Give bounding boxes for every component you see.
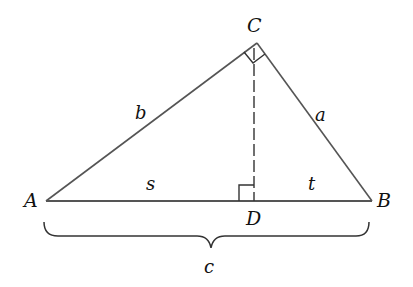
side-label-a: a xyxy=(315,104,326,125)
vertex-label-d: D xyxy=(245,207,261,229)
diagram-canvas: A B C D b a s t c xyxy=(0,0,413,287)
side-label-b: b xyxy=(135,102,147,123)
triangle-diagram: A B C D b a s t c xyxy=(0,0,413,287)
side-label-t: t xyxy=(308,173,316,194)
vertex-label-a: A xyxy=(22,189,38,211)
vertex-label-b: B xyxy=(376,189,391,211)
right-angle-mark-d xyxy=(239,185,254,201)
vertex-label-c: C xyxy=(247,14,262,36)
side-label-c: c xyxy=(204,256,214,277)
brace-c xyxy=(44,222,369,248)
side-label-s: s xyxy=(146,173,155,194)
